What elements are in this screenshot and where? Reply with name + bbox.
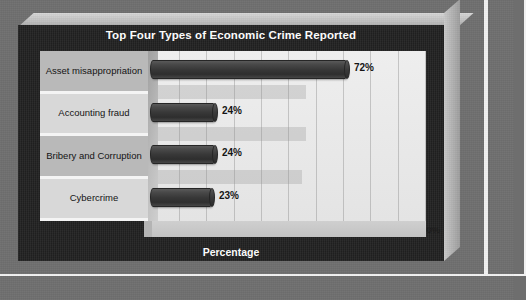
- bar-bribery-and-corruption[interactable]: [150, 145, 216, 164]
- chart-3d-block: Top Four Types of Economic Crime Reporte…: [18, 13, 458, 261]
- gridline: [398, 51, 399, 221]
- gridline: [425, 51, 426, 221]
- category-label: Accounting fraud: [40, 94, 148, 137]
- plot-wrap: Asset misappropriation Accounting fraud …: [40, 51, 426, 221]
- chart-right-bevel: [444, 0, 460, 261]
- chart-title: Top Four Types of Economic Crime Reporte…: [18, 29, 444, 41]
- x-axis-title: Percentage: [18, 246, 444, 258]
- bar-shelf: [152, 170, 302, 184]
- category-label: Cybercrime: [40, 179, 148, 222]
- category-label: Bribery and Corruption: [40, 136, 148, 179]
- chart-face: Top Four Types of Economic Crime Reporte…: [18, 25, 444, 261]
- bar-asset-misappropriation[interactable]: [150, 60, 348, 79]
- side-panel: [486, 0, 526, 276]
- category-axis: Asset misappropriation Accounting fraud …: [40, 51, 148, 221]
- gridline: [370, 51, 371, 221]
- plot-floor: [152, 221, 426, 237]
- bar-accounting-fraud[interactable]: [150, 103, 216, 122]
- bar-shelf: [152, 85, 306, 99]
- bar-cybercrime[interactable]: [150, 188, 213, 207]
- bar-shelf: [152, 127, 306, 141]
- category-label: Asset misappropriation: [40, 51, 148, 94]
